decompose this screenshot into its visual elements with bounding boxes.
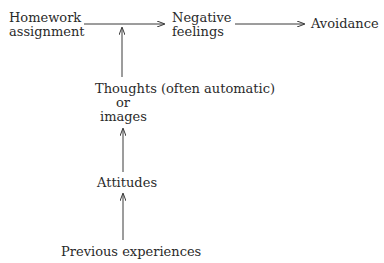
node-previous-experiences: Previous experiences bbox=[61, 245, 201, 259]
node-avoidance-label: Avoidance bbox=[311, 17, 379, 31]
diagram-canvas: Homework assignment Negative feelings Av… bbox=[0, 0, 384, 263]
node-thoughts-line3: images bbox=[95, 110, 275, 124]
node-thoughts: Thoughts (often automatic) or images bbox=[95, 82, 275, 124]
node-avoidance: Avoidance bbox=[311, 17, 379, 31]
node-homework-line2: assignment bbox=[9, 25, 85, 39]
node-negative-line2: feelings bbox=[172, 25, 232, 39]
node-homework-assignment: Homework assignment bbox=[9, 11, 85, 39]
node-negative-feelings: Negative feelings bbox=[172, 11, 232, 39]
arrows-layer bbox=[0, 0, 384, 263]
node-previous-label: Previous experiences bbox=[61, 245, 201, 259]
node-thoughts-line1: Thoughts (often automatic) bbox=[95, 82, 275, 96]
node-homework-line1: Homework bbox=[9, 11, 85, 25]
node-attitudes-label: Attitudes bbox=[97, 176, 157, 190]
node-attitudes: Attitudes bbox=[97, 176, 157, 190]
node-thoughts-line2: or bbox=[95, 96, 275, 110]
node-negative-line1: Negative bbox=[172, 11, 232, 25]
